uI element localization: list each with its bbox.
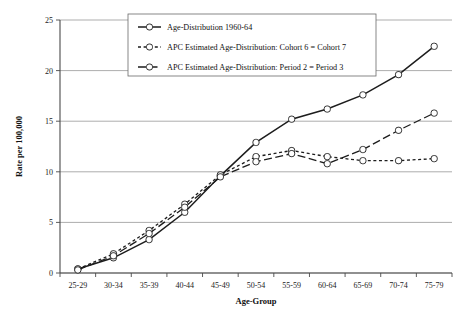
data-point-0-6 bbox=[289, 116, 295, 122]
legend-marker-2 bbox=[147, 64, 153, 70]
data-point-2-7 bbox=[324, 161, 330, 167]
x-tick-label-55-59: 55-59 bbox=[282, 281, 301, 290]
data-point-2-0 bbox=[75, 267, 81, 273]
data-point-1-8 bbox=[360, 158, 366, 164]
y-tick-label-0: 0 bbox=[49, 269, 53, 278]
data-point-0-2 bbox=[146, 237, 152, 243]
data-point-0-5 bbox=[253, 139, 259, 145]
data-point-0-7 bbox=[324, 106, 330, 112]
data-point-2-4 bbox=[217, 174, 223, 180]
y-tick-label-25: 25 bbox=[45, 16, 53, 25]
data-point-2-2 bbox=[146, 230, 152, 236]
data-point-2-9 bbox=[395, 127, 401, 133]
data-point-2-5 bbox=[253, 159, 259, 165]
x-tick-label-30-34: 30-34 bbox=[104, 281, 123, 290]
data-point-2-6 bbox=[289, 150, 295, 156]
legend-label-1: APC Estimated Age-Distribution: Cohort 6… bbox=[167, 43, 346, 52]
x-tick-label-35-39: 35-39 bbox=[140, 281, 159, 290]
legend-label-0: Age-Distribution 1960-64 bbox=[167, 23, 252, 32]
legend-marker-0 bbox=[147, 24, 153, 30]
data-point-0-10 bbox=[431, 43, 437, 49]
y-tick-label-10: 10 bbox=[45, 168, 53, 177]
chart-container: 051015202525-2930-3435-3940-4445-4950-54… bbox=[0, 0, 468, 328]
data-point-1-9 bbox=[395, 158, 401, 164]
x-tick-label-40-44: 40-44 bbox=[175, 281, 194, 290]
x-tick-label-60-64: 60-64 bbox=[318, 281, 337, 290]
data-point-0-8 bbox=[360, 92, 366, 98]
x-axis-title: Age-Group bbox=[236, 296, 277, 306]
data-point-1-7 bbox=[324, 154, 330, 160]
y-tick-label-5: 5 bbox=[49, 218, 53, 227]
y-axis-title: Rate per 100,000 bbox=[14, 116, 24, 177]
data-point-0-9 bbox=[395, 72, 401, 78]
legend-label-2: APC Estimated Age-Distribution: Period 2… bbox=[167, 63, 343, 72]
data-point-2-1 bbox=[110, 253, 116, 259]
y-tick-label-15: 15 bbox=[45, 117, 53, 126]
x-tick-label-45-49: 45-49 bbox=[211, 281, 230, 290]
y-tick-label-20: 20 bbox=[45, 67, 53, 76]
line-chart: 051015202525-2930-3435-3940-4445-4950-54… bbox=[0, 0, 468, 328]
x-tick-label-25-29: 25-29 bbox=[68, 281, 87, 290]
data-point-2-3 bbox=[182, 204, 188, 210]
data-point-1-10 bbox=[431, 156, 437, 162]
x-tick-label-50-54: 50-54 bbox=[247, 281, 266, 290]
data-point-2-8 bbox=[360, 146, 366, 152]
x-tick-label-75-79: 75-79 bbox=[425, 281, 444, 290]
x-tick-label-65-69: 65-69 bbox=[354, 281, 373, 290]
x-tick-label-70-74: 70-74 bbox=[389, 281, 408, 290]
data-point-2-10 bbox=[431, 110, 437, 116]
legend-marker-1 bbox=[147, 44, 153, 50]
